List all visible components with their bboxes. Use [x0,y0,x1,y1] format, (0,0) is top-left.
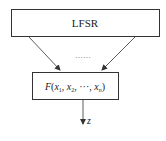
output-label: z [86,115,91,126]
function-box: F(x1, x2, ···, xn) [33,73,119,100]
lfsr-diagram: LFSR …… F(x1, x2, ···, xn) z [0,0,166,141]
lfsr-label: LFSR [72,17,99,29]
ellipsis: …… [75,51,91,60]
lfsr-box: LFSR [12,10,160,37]
right-arrow [102,37,135,70]
left-arrow [29,37,60,70]
function-label: F(x1, x2, ···, xn) [44,81,105,93]
